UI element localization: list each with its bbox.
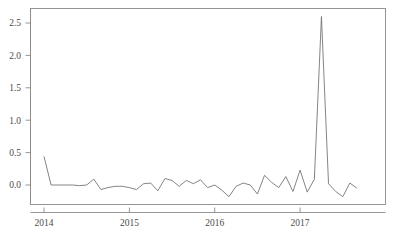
x-tick-label-2015: 2015: [120, 218, 139, 228]
y-tick-label-5: 2.5: [9, 18, 21, 28]
y-tick-label-0: 0.0: [9, 180, 21, 190]
time-series-chart: 0.0 0.5 1.0 1.5 2.0 2.5 2014 2015 2016 2…: [0, 0, 393, 238]
y-tick-label-2: 1.0: [9, 116, 21, 126]
y-tick-label-1: 0.5: [9, 148, 21, 158]
chart-container: 0.0 0.5 1.0 1.5 2.0 2.5 2014 2015 2016 2…: [0, 0, 393, 238]
chart-background: [0, 0, 393, 238]
x-tick-label-2016: 2016: [205, 218, 224, 228]
y-tick-label-3: 1.5: [9, 83, 21, 93]
x-tick-label-2014: 2014: [35, 218, 54, 228]
x-tick-label-2017: 2017: [291, 218, 310, 228]
y-tick-label-4: 2.0: [9, 51, 21, 61]
